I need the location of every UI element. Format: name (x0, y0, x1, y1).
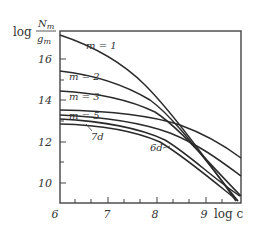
y-ticks (60, 59, 66, 183)
curve-7d (60, 124, 238, 201)
y-tick-label-14: 14 (38, 94, 52, 107)
x-tick-label-9: 9 (201, 208, 208, 221)
y-axis-title: log Nm gm (13, 18, 56, 46)
label-7d: 7d (91, 131, 104, 142)
y-axis-denominator: gm (37, 33, 51, 46)
label-m2: m = 2 (69, 71, 100, 82)
y-tick-label-12: 12 (38, 136, 52, 149)
y-tick-label-10: 10 (38, 177, 52, 190)
label-m1: m = 1 (86, 40, 117, 51)
y-tick-label-16: 16 (38, 53, 52, 66)
label-6d: 6d (150, 142, 163, 153)
y-axis-numerator: Nm (37, 18, 55, 31)
x-ticks (75, 197, 222, 203)
x-tick-label-6: 6 (52, 208, 59, 221)
y-axis-log: log (13, 25, 32, 39)
curve-6d (60, 119, 240, 196)
chart: 6 7 8 9 log c 16 14 12 10 log Nm gm m = … (0, 0, 259, 231)
label-m5: m = 5 (69, 110, 100, 121)
label-m3: m = 3 (69, 91, 100, 102)
x-tick-label-8: 8 (152, 208, 159, 221)
x-tick-label-7: 7 (104, 208, 111, 221)
x-axis-title: log c (214, 207, 244, 221)
